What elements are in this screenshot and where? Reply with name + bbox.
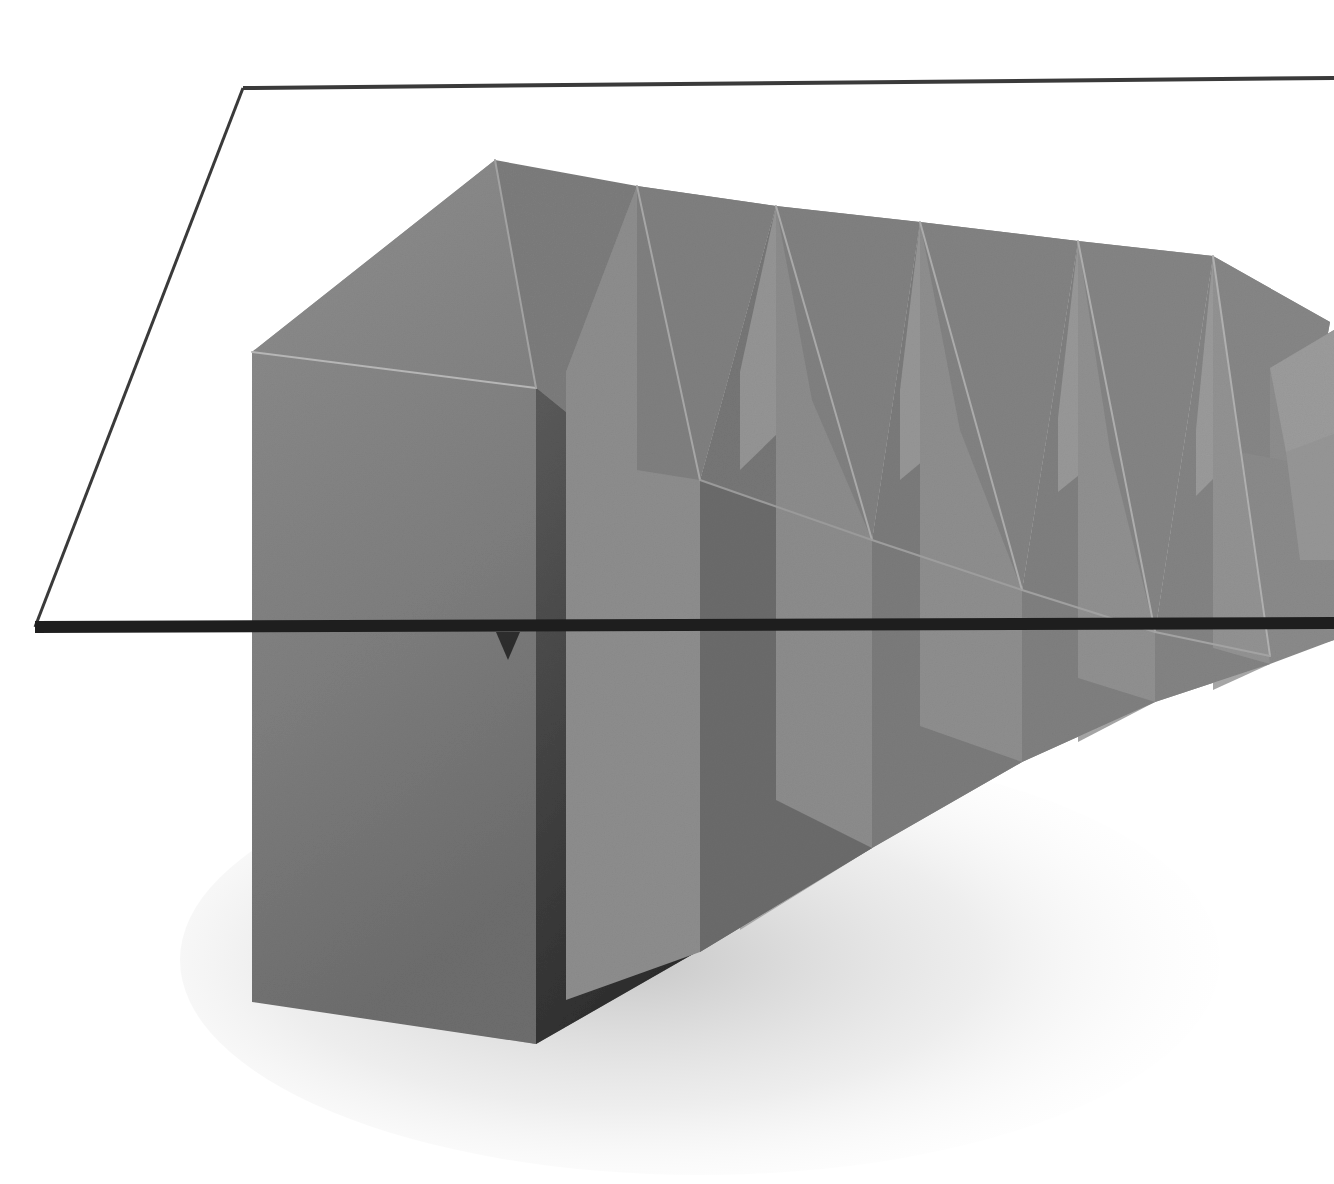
pleated-surface-diagram [0,0,1334,1184]
plane-edge-bottom [35,623,1334,627]
figure-canvas: Pleated (accordion-folded) surface inter… [0,0,1334,1184]
